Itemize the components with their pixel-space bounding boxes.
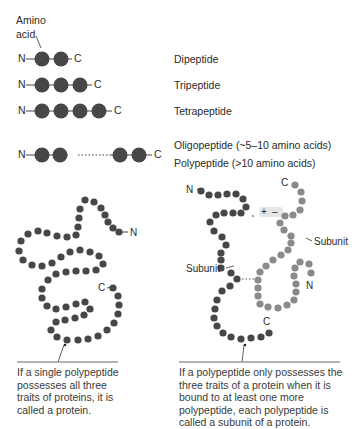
tripeptide-c: C — [94, 78, 102, 91]
tetrapeptide-n: N — [18, 104, 26, 117]
tetrapeptide-chain — [26, 104, 112, 119]
tripeptide-chain — [26, 78, 92, 93]
right-light-c: C — [281, 176, 288, 189]
right-dark-n: N — [186, 183, 193, 196]
polypeptide-chain — [26, 148, 152, 163]
label-polypeptide: Polypeptide (>10 amino acids) — [174, 157, 316, 170]
label-tetrapeptide: Tetrapeptide — [174, 105, 232, 118]
right-dark-c: C — [263, 315, 270, 328]
dipeptide-c: C — [74, 52, 82, 65]
polypeptide-c: C — [154, 148, 162, 161]
dipeptide-n: N — [18, 52, 26, 65]
right-caption: If a polypeptide only possesses the thre… — [179, 366, 347, 429]
right-pointer — [242, 345, 244, 362]
subunit-light — [254, 181, 314, 311]
subunit-label-light: Subunit — [314, 235, 348, 248]
label-dipeptide: Dipeptide — [174, 53, 218, 66]
tetrapeptide-c: C — [114, 104, 122, 117]
right-light-n: N — [306, 279, 313, 292]
label-oligopeptide: Oligopeptide (~5–10 amino acids) — [174, 139, 331, 152]
dipeptide-chain — [26, 52, 72, 67]
polypeptide-n: N — [18, 148, 26, 161]
left-chain-c: C — [98, 281, 105, 294]
ionic-minus: – — [272, 205, 278, 218]
ionic-plus: + — [261, 205, 267, 218]
amino-acid-label: Amino acid — [16, 13, 46, 41]
tripeptide-n: N — [18, 78, 26, 91]
left-pointer — [58, 345, 64, 362]
label-tripeptide: Tripeptide — [174, 79, 220, 92]
single-polypeptide-protein — [15, 196, 128, 343]
subunit-label-dark: Subunit — [186, 262, 220, 275]
left-caption: If a single polypeptide possesses all th… — [17, 366, 125, 416]
left-chain-n: N — [130, 226, 137, 239]
